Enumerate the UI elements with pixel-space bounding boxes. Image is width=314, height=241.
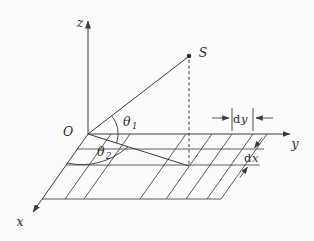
theta1-arc: [112, 116, 118, 143]
dx-label-operator: d: [244, 151, 252, 165]
diagram-canvas: z y x O S θ 1 θ 2 d y d x: [0, 0, 314, 241]
axes: [33, 21, 290, 212]
x-axis-label: x: [16, 214, 23, 229]
coordinate-diagram: z y x O S θ 1 θ 2 d y d x: [0, 0, 314, 241]
grid-line: [186, 134, 232, 199]
z-axis-label: z: [76, 15, 84, 30]
dy-label-variable: y: [240, 112, 248, 126]
dx-arrow-lower: [240, 167, 248, 178]
grid-line: [140, 134, 186, 199]
grid-line: [84, 134, 130, 199]
plane-right-edge: [221, 134, 267, 199]
point-s-dot: [187, 54, 191, 58]
theta2-subscript: 2: [105, 151, 111, 161]
x-axis: [33, 134, 88, 212]
theta1-label: θ: [123, 114, 131, 129]
ray-o-to-s: [88, 57, 188, 134]
theta1-subscript: 1: [132, 121, 137, 131]
y-axis-label: y: [290, 136, 299, 151]
theta2-label: θ: [97, 144, 105, 159]
dy-label-operator: d: [233, 112, 241, 126]
grid-line: [166, 134, 212, 199]
point-s-label: S: [199, 45, 208, 60]
plane-grid: [42, 134, 267, 199]
grid-line: [207, 134, 253, 199]
dx-label-variable: x: [252, 151, 259, 165]
origin-label: O: [63, 124, 73, 139]
